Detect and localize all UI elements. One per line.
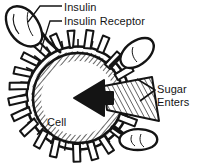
label-cell: Cell <box>47 116 66 128</box>
label-insulin-receptor: Insulin Receptor <box>64 15 145 27</box>
label-insulin: Insulin <box>64 1 97 13</box>
insulin-receptor-diagram: Insulin Insulin Receptor Sugar Enters Ce… <box>0 0 203 167</box>
insulin-molecule-bottom-right <box>112 127 157 150</box>
label-sugar-enters-line2: Enters <box>157 96 189 108</box>
insulin-molecule-top-left <box>6 6 60 52</box>
label-sugar-enters-line1: Sugar <box>157 83 187 95</box>
